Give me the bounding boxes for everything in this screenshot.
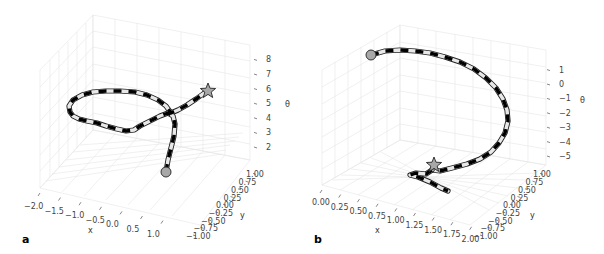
panel-b-z-tick-label: −2	[559, 109, 571, 118]
panel-b-x-tick	[395, 208, 397, 211]
panel-b-z-tick	[547, 70, 550, 71]
panel-b-y-tick-label: −0.25	[496, 209, 521, 218]
panel-b-x-tick-label: 0.50	[349, 207, 367, 216]
panel-a-3d-plot: 2345678 θ −2.0−1.5−1.0−0.50.00.51.0 x −1…	[22, 15, 290, 246]
panel-a-y-tick-label: −0.25	[209, 209, 234, 218]
panel-b-z-tick-label: 1	[559, 66, 564, 75]
panel-b-z-axis-label: θ	[580, 96, 585, 105]
panel-b-x-tick	[320, 190, 322, 193]
panel-a-x-tick	[79, 202, 81, 205]
panel-b-z-tick	[547, 98, 550, 99]
panel-b-y-tick-label: 0.50	[518, 186, 536, 195]
panel-a-x-tick-label: 1.0	[147, 230, 160, 239]
panel-a-x-tick-label: −2.0	[24, 202, 43, 211]
panel-b-x-tick	[414, 213, 416, 216]
panel-b-z-tick	[547, 156, 550, 157]
panel-a-z-tick-label: 6	[266, 85, 271, 94]
panel-b-3d-plot: −5−4−3−2−101 θ 0.000.250.500.751.001.251…	[312, 25, 585, 246]
panel-b-z-axis: −5−4−3−2−101 θ	[547, 66, 585, 161]
panel-a-x-tick	[161, 221, 163, 224]
panel-a-label: a	[22, 233, 29, 246]
panel-b-z-tick	[547, 84, 550, 85]
panel-b-x-tick	[451, 222, 453, 225]
panel-a-y-axis-label: y	[240, 211, 245, 220]
panel-a-x-tick	[120, 211, 122, 214]
panel-a-x-tick-label: 0.5	[127, 225, 140, 234]
panel-a-x-tick-label: 0.0	[106, 220, 119, 229]
panel-a-x-tick-label: −0.5	[86, 216, 105, 225]
panel-a-start-circle-icon	[161, 167, 171, 177]
panel-b-x-tick-label: 1.75	[443, 230, 461, 239]
panel-b-x-tick-label: 1.25	[406, 221, 424, 230]
panel-a-x-tick-label: −1.5	[45, 207, 64, 216]
panel-b-y-axis: −1.00−0.75−0.50−0.250.000.250.500.751.00…	[473, 170, 551, 241]
panel-b-x-axis-label: x	[375, 226, 380, 235]
panel-b-z-tick-label: −4	[559, 138, 571, 147]
panel-b-z-tick	[547, 142, 550, 143]
panel-a-z-tick-label: 3	[266, 128, 271, 137]
panel-a-x-tick	[141, 216, 143, 219]
panel-b-z-tick	[547, 127, 550, 128]
panel-b-x-tick-label: 0.00	[312, 198, 330, 207]
panel-a-z-tick-label: 5	[266, 99, 271, 108]
panel-b-y-tick-label: 1.00	[533, 170, 551, 179]
panel-b-y-tick-label: −0.50	[488, 217, 513, 226]
panel-b-y-tick-label: −1.00	[473, 232, 498, 241]
panel-b-label: b	[314, 233, 322, 246]
panel-a-z-tick	[254, 89, 257, 90]
panel-a-y-tick-label: 0.00	[216, 201, 234, 210]
panel-b-y-tick-label: 0.75	[526, 178, 544, 187]
panel-b-z-tick-label: −1	[559, 94, 571, 103]
panel-a-y-tick-label: −0.75	[194, 224, 219, 233]
panel-b-z-tick-label: −3	[559, 123, 571, 132]
panel-a-z-tick	[254, 59, 257, 60]
panel-a-x-axis: −2.0−1.5−1.0−0.50.00.51.0 x	[24, 193, 163, 239]
panel-a-z-tick	[254, 103, 257, 104]
panel-a-z-axis-label: θ	[285, 100, 290, 109]
panel-a-x-tick	[100, 207, 102, 210]
panel-b-x-tick-label: 1.00	[387, 216, 405, 225]
panel-b-x-tick-label: 1.50	[424, 226, 442, 235]
panel-a-grid	[40, 15, 250, 225]
panel-a-x-tick	[59, 198, 61, 201]
panel-a-y-tick-label: −1.00	[186, 232, 211, 241]
panel-a-x-tick	[38, 193, 40, 196]
panel-a-z-tick	[254, 118, 257, 119]
panel-b-curve-stripes	[371, 50, 508, 171]
panel-a-z-tick	[254, 132, 257, 133]
panel-a-z-axis: 2345678 θ	[254, 55, 290, 152]
panel-a-y-tick-label: 0.50	[231, 186, 249, 195]
panel-b-start-circle-icon	[366, 50, 376, 60]
panel-a-z-tick-label: 7	[266, 70, 271, 79]
panel-a-y-tick-label: 0.75	[239, 178, 257, 187]
panel-a-x-axis-label: x	[88, 226, 93, 235]
panel-a-z-tick-label: 8	[266, 55, 271, 64]
panel-b-x-tick	[357, 199, 359, 202]
panel-b-x-tick	[470, 227, 472, 230]
panel-b-x-tick	[432, 218, 434, 221]
panel-b-x-tick-label: 0.75	[368, 212, 386, 221]
panel-a-y-tick-label: −0.50	[201, 217, 226, 226]
figure-canvas: 2345678 θ −2.0−1.5−1.0−0.50.00.51.0 x −1…	[0, 0, 604, 254]
panel-b-y-tick-label: 0.25	[511, 194, 529, 203]
panel-b-z-tick-label: −5	[559, 152, 571, 161]
panel-b-x-tick	[376, 204, 378, 207]
panel-a-z-tick-label: 2	[266, 143, 271, 152]
panel-b-x-tick-label: 0.25	[331, 203, 349, 212]
panel-a-z-tick	[254, 74, 257, 75]
panel-a-y-tick-label: 1.00	[246, 170, 264, 179]
panel-b-y-axis-label: y	[530, 211, 535, 220]
panel-b-z-tick	[547, 113, 550, 114]
panel-b-y-tick-label: 0.00	[503, 201, 521, 210]
panel-a-y-axis: −1.00−0.75−0.50−0.250.000.250.500.751.00…	[186, 170, 264, 241]
panel-a-x-tick-label: −1.0	[65, 211, 84, 220]
panel-a-z-tick-label: 4	[266, 114, 271, 123]
panel-b-y-tick-label: −0.75	[481, 224, 506, 233]
panel-a-y-tick-label: 0.25	[224, 194, 242, 203]
panel-b-x-tick	[339, 195, 341, 198]
figure: 2345678 θ −2.0−1.5−1.0−0.50.00.51.0 x −1…	[0, 0, 604, 254]
panel-a-z-tick	[254, 147, 257, 148]
panel-b-z-tick-label: 0	[559, 80, 564, 89]
